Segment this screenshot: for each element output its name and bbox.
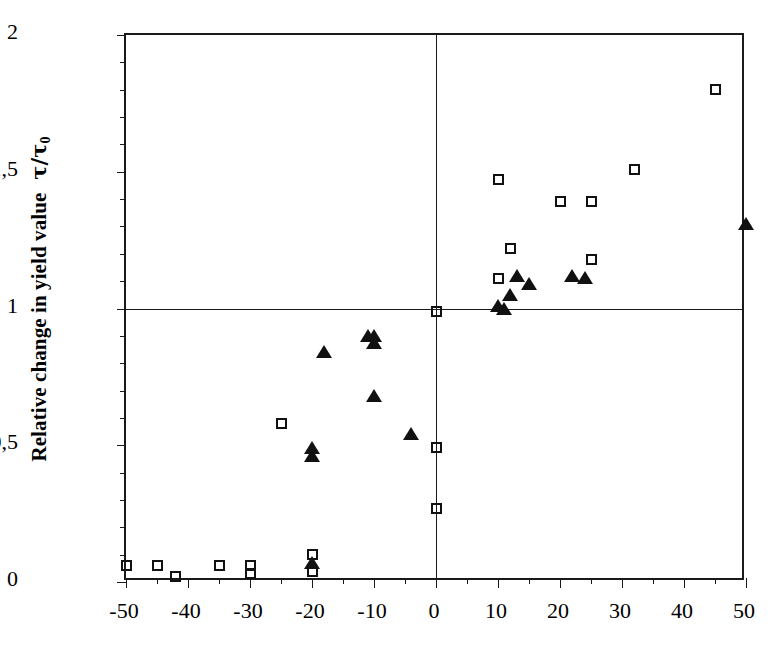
x-tick-40: [684, 578, 685, 588]
data-point-filled-triangle: [316, 345, 332, 358]
y-tick-0.5: [117, 445, 126, 446]
data-point-open-square: [307, 566, 318, 577]
data-point-filled-triangle: [502, 288, 518, 301]
data-point-filled-triangle: [304, 556, 320, 569]
y-tick-0.1: [120, 555, 126, 556]
x-tick--50: [126, 578, 127, 588]
data-point-open-square: [245, 560, 256, 571]
y-tick-1.8: [120, 90, 126, 91]
x-tick-15: [529, 578, 530, 584]
y-tick-0.2: [120, 527, 126, 528]
data-point-open-square: [586, 254, 597, 265]
data-point-open-square: [152, 560, 163, 571]
x-tick-label-40: 40: [647, 600, 717, 622]
y-tick-label-0.5: 0,5: [0, 431, 18, 453]
x-tick-30: [622, 578, 623, 588]
data-point-filled-triangle: [577, 271, 593, 284]
data-point-open-square: [493, 273, 504, 284]
data-point-filled-triangle: [738, 217, 754, 230]
x-tick--15: [343, 578, 344, 584]
y-tick-0.6: [120, 418, 126, 419]
x-tick-50: [746, 578, 747, 588]
y-tick-1: [117, 309, 126, 310]
y-tick-1.1: [120, 281, 126, 282]
x-tick-label-10: 10: [461, 600, 531, 622]
y-tick-label-2: 2: [0, 21, 18, 43]
data-point-open-square: [170, 571, 181, 582]
x-tick-45: [715, 578, 716, 584]
data-point-filled-triangle: [521, 277, 537, 290]
y-tick-label-1.5: 1,5: [0, 158, 18, 180]
y-tick-label-1: 1: [0, 295, 18, 317]
data-point-filled-triangle: [366, 389, 382, 402]
y-axis-title-symbol: τ/τ: [26, 144, 51, 180]
y-tick-2: [117, 35, 126, 36]
x-tick--20: [312, 578, 313, 588]
x-tick-0: [436, 578, 437, 588]
data-point-filled-triangle: [564, 269, 580, 282]
x-tick-label-30: 30: [585, 600, 655, 622]
reference-line-y-1: [126, 309, 742, 310]
x-tick--35: [219, 578, 220, 584]
data-point-open-square: [121, 560, 132, 571]
x-tick-label-0: 0: [399, 600, 469, 622]
x-tick--30: [250, 578, 251, 588]
x-tick-label-50: 50: [709, 600, 777, 622]
y-tick-0: [117, 582, 126, 583]
x-tick-label--10: -10: [337, 600, 407, 622]
y-tick-0.8: [120, 363, 126, 364]
x-tick-35: [653, 578, 654, 584]
data-point-filled-triangle: [366, 336, 382, 349]
x-tick-label-20: 20: [523, 600, 593, 622]
y-tick-label-0: 0: [0, 568, 18, 590]
data-point-open-square: [307, 549, 318, 560]
y-tick-1.4: [120, 199, 126, 200]
y-tick-1.2: [120, 254, 126, 255]
x-tick-20: [560, 578, 561, 588]
y-axis-title-subscript: 0: [38, 136, 53, 143]
y-tick-0.7: [120, 391, 126, 392]
x-tick--45: [157, 578, 158, 584]
x-tick--25: [281, 578, 282, 584]
data-point-filled-triangle: [304, 449, 320, 462]
data-point-open-square: [493, 174, 504, 185]
x-tick--40: [188, 578, 189, 588]
plot-area: [124, 33, 744, 580]
x-tick-5: [467, 578, 468, 584]
scatter-chart-figure: Relative change in yield value τ/τ0 00,5…: [0, 0, 777, 650]
y-tick-0.4: [120, 473, 126, 474]
y-axis-title-container: Relative change in yield value τ/τ0: [0, 0, 46, 650]
data-point-filled-triangle: [366, 329, 382, 342]
data-point-open-square: [505, 243, 516, 254]
data-point-open-square: [214, 560, 225, 571]
y-axis-title: Relative change in yield value τ/τ0: [26, 19, 54, 579]
y-tick-1.7: [120, 117, 126, 118]
x-tick-label--20: -20: [275, 600, 345, 622]
y-tick-0.3: [120, 500, 126, 501]
data-point-open-square: [276, 418, 287, 429]
x-tick-label--50: -50: [89, 600, 159, 622]
x-tick--5: [405, 578, 406, 584]
y-tick-1.3: [120, 226, 126, 227]
data-point-filled-triangle: [304, 441, 320, 454]
data-point-filled-triangle: [403, 427, 419, 440]
x-tick-10: [498, 578, 499, 588]
data-point-open-square: [710, 84, 721, 95]
x-tick-25: [591, 578, 592, 584]
data-point-open-square: [555, 196, 566, 207]
data-point-open-square: [629, 164, 640, 175]
x-tick--10: [374, 578, 375, 588]
data-point-filled-triangle: [509, 269, 525, 282]
data-point-open-square: [586, 196, 597, 207]
data-point-filled-triangle: [360, 329, 376, 342]
x-tick-label--40: -40: [151, 600, 221, 622]
y-tick-1.6: [120, 144, 126, 145]
y-tick-1.5: [117, 172, 126, 173]
data-point-filled-triangle: [490, 299, 506, 312]
y-tick-1.9: [120, 62, 126, 63]
x-tick-label--30: -30: [213, 600, 283, 622]
reference-line-x-0: [436, 35, 437, 578]
y-tick-0.9: [120, 336, 126, 337]
y-axis-title-text: Relative change in yield value: [27, 193, 51, 462]
